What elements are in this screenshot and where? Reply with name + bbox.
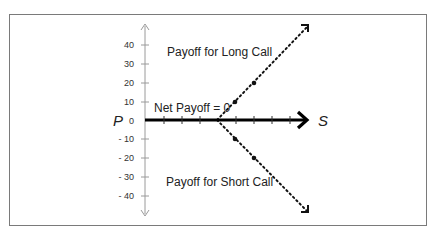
y-tick-neg10: - 10 [118, 134, 134, 144]
long-call-line [217, 25, 308, 120]
x-axis-label: S [318, 112, 328, 129]
net-payoff-label: Net Payoff = 0 [154, 101, 230, 115]
short-call-line [217, 120, 308, 212]
y-tick-neg40: - 40 [118, 191, 134, 201]
marker-short-20 [252, 156, 257, 161]
y-tick-10: 10 [124, 97, 134, 107]
y-axis-label: P [113, 112, 123, 129]
payoff-chart: 40 30 20 10 0 - 10 - 20 - 30 - 40 P [0, 0, 434, 233]
y-tick-neg30: - 30 [118, 172, 134, 182]
marker-short-10 [233, 137, 238, 142]
y-tick-0: 0 [129, 116, 134, 126]
y-tick-neg20: - 20 [118, 153, 134, 163]
short-call-label: Payoff for Short Call [166, 175, 273, 189]
y-tick-40: 40 [124, 40, 134, 50]
y-tick-20: 20 [124, 78, 134, 88]
long-call-label: Payoff for Long Call [167, 45, 272, 59]
marker-long-20 [252, 81, 257, 86]
y-tick-30: 30 [124, 59, 134, 69]
marker-long-10 [233, 100, 238, 105]
